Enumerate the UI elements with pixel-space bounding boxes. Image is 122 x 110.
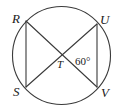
geometry-figure: R U S V T 60°	[0, 0, 122, 110]
angle-label-60-degrees: 60°	[75, 56, 90, 67]
vertex-label-R: R	[12, 12, 20, 25]
vertex-label-U: U	[100, 13, 109, 26]
vertex-label-S: S	[13, 85, 20, 98]
vertex-label-V: V	[101, 86, 109, 99]
vertex-label-T: T	[57, 59, 63, 70]
